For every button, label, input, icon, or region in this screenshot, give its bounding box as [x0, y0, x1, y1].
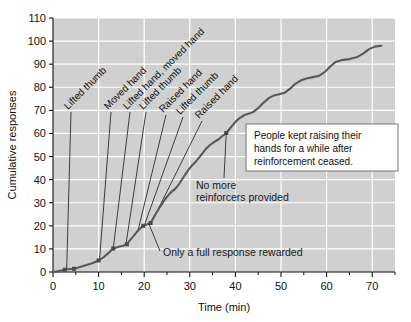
annotation-only-full-response: Only a full response rewarded [163, 246, 303, 258]
svg-text:90: 90 [34, 58, 46, 70]
chart-svg: 0102030405060708090100110 01020304050607… [0, 0, 411, 322]
cumulative-response-chart: 0102030405060708090100110 01020304050607… [0, 0, 411, 322]
svg-text:70: 70 [34, 104, 46, 116]
svg-text:0: 0 [50, 280, 56, 292]
svg-text:60: 60 [34, 127, 46, 139]
svg-text:30: 30 [184, 280, 196, 292]
svg-text:0: 0 [40, 266, 46, 278]
svg-text:70: 70 [366, 280, 378, 292]
svg-text:30: 30 [34, 197, 46, 209]
svg-text:80: 80 [34, 81, 46, 93]
svg-text:50: 50 [275, 280, 287, 292]
svg-text:40: 40 [229, 280, 241, 292]
svg-text:20: 20 [138, 280, 150, 292]
svg-text:10: 10 [34, 243, 46, 255]
svg-text:20: 20 [34, 220, 46, 232]
svg-text:10: 10 [92, 280, 104, 292]
y-axis-ticks: 0102030405060708090100110 [28, 12, 53, 278]
callout-box-text: People kept raising theirhands for a whi… [254, 130, 362, 167]
x-axis-title: Time (min) [198, 301, 250, 313]
svg-text:100: 100 [28, 35, 46, 47]
callout-box: People kept raising theirhands for a whi… [246, 124, 398, 171]
svg-text:40: 40 [34, 174, 46, 186]
svg-text:60: 60 [320, 280, 332, 292]
y-axis-title: Cumulative responses [6, 90, 18, 199]
x-axis-ticks: 010203040506070 [50, 272, 395, 292]
svg-text:50: 50 [34, 151, 46, 163]
svg-text:110: 110 [28, 12, 46, 24]
